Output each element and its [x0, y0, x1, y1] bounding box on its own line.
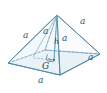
right-angle-dot: [50, 59, 51, 60]
centroid-label: G: [42, 62, 49, 71]
centroid-point: [53, 59, 55, 61]
edge-label-inner-left: a: [43, 27, 48, 36]
pyramid-figure: a a a a a a h G: [0, 0, 107, 93]
edge-label-slant-left: a: [23, 31, 28, 40]
edge-label-slant-right: a: [80, 17, 85, 26]
height-label: h: [54, 38, 59, 46]
edge-label-base-front: a: [38, 76, 43, 85]
edge-label-inner-right: a: [62, 34, 67, 43]
edge-label-base-right: a: [88, 53, 93, 62]
pyramid-diagram-svg: [0, 0, 107, 93]
